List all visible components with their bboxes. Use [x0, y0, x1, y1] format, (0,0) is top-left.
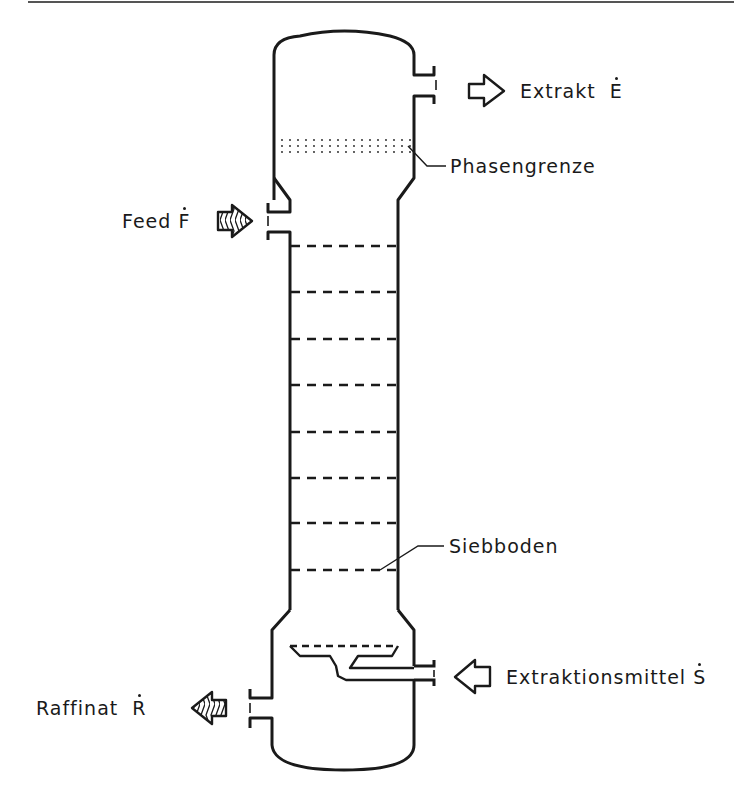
raffinate-label-text: Raffinat [36, 697, 118, 719]
feed-symbol: F [178, 212, 190, 231]
feed-label-text: Feed [122, 210, 171, 232]
raffinate-symbol: R [132, 699, 146, 718]
phase-interface [277, 139, 411, 155]
raffinate-arrow-icon [192, 692, 226, 724]
feed-arrow-icon [218, 205, 252, 237]
raffinate-label: Raffinat R [36, 699, 147, 718]
solvent-symbol: S [693, 668, 706, 687]
extract-symbol: E [610, 82, 623, 101]
sieve-tray-label: Siebboden [449, 537, 559, 556]
interface-label: Phasengrenze [450, 157, 596, 176]
solvent-label: Extraktionsmittel S [506, 668, 706, 687]
sieve-trays [291, 246, 397, 570]
feed-label: Feed F [122, 212, 190, 231]
solvent-inlet-nozzle [414, 660, 434, 686]
nozzle-ticks [250, 80, 436, 713]
solvent-distributor [290, 646, 414, 680]
solvent-arrow-icon [455, 660, 490, 693]
extract-label: Extrakt E [520, 82, 623, 101]
leader-lines [380, 146, 446, 570]
solvent-label-text: Extraktionsmittel [506, 666, 686, 688]
extract-arrow-icon [469, 75, 504, 106]
extract-label-text: Extrakt [520, 80, 596, 102]
